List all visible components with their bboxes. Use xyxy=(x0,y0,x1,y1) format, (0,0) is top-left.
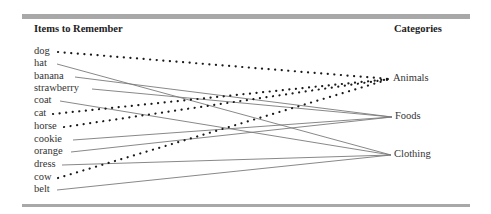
item-label-hat: hat xyxy=(34,57,47,69)
bottom-rule xyxy=(22,204,470,207)
item-label-dress: dress xyxy=(34,158,56,170)
item-label-orange: orange xyxy=(34,145,63,157)
link-hat-clothing xyxy=(57,64,391,155)
category-label-clothing: Clothing xyxy=(394,148,431,160)
category-label-animals: Animals xyxy=(393,72,429,84)
category-label-foods: Foods xyxy=(395,110,421,122)
link-strawberry-foods xyxy=(92,89,392,117)
item-label-strawberry: strawberry xyxy=(34,82,79,94)
link-dog-animals xyxy=(58,52,390,79)
link-horse-animals xyxy=(64,79,390,127)
item-label-belt: belt xyxy=(34,183,50,195)
item-label-dog: dog xyxy=(34,45,50,57)
link-cow-animals xyxy=(58,79,390,178)
link-cookie-foods xyxy=(73,117,392,140)
link-coat-clothing xyxy=(60,101,391,155)
link-orange-foods xyxy=(71,117,392,152)
item-label-banana: banana xyxy=(34,70,64,82)
item-label-cat: cat xyxy=(34,107,46,119)
item-label-cow: cow xyxy=(34,171,52,183)
item-label-horse: horse xyxy=(34,120,57,132)
item-label-cookie: cookie xyxy=(34,133,62,145)
connection-lines xyxy=(0,0,491,214)
item-label-coat: coat xyxy=(34,94,52,106)
